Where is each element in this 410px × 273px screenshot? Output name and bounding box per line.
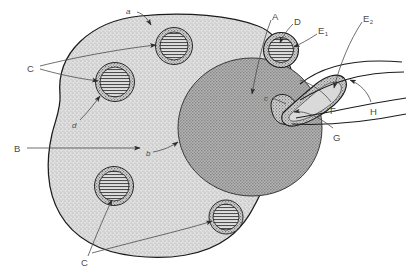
label-a: A [272,12,279,22]
label-e2-sub: 2 [370,19,373,25]
label-c-bottom: C [81,258,88,268]
label-b: B [14,144,21,154]
inclusion-body-lower-left [95,167,134,206]
label-e2: E2 [363,14,373,25]
inclusion-body-bottom [209,200,243,234]
label-d: D [294,17,301,27]
label-e1-base: E [318,25,325,36]
label-c-lowercase: c [264,95,268,103]
nucleus [178,58,322,196]
label-b-lowercase: b [146,150,150,158]
detached-organelle [264,33,299,68]
label-e1: E1 [318,26,328,37]
figure-canvas: A B C C D F G H E1 E2 a b c d [0,0,410,273]
label-d-lowercase: d [72,122,76,130]
inclusion-body-upper-left [96,63,135,102]
inclusion-body-top [156,28,193,65]
label-h: H [370,107,377,117]
label-g: G [333,133,341,143]
label-a-lowercase: a [126,8,130,16]
label-f: F [330,106,336,116]
label-c-upper-left: C [27,64,34,74]
cell-diagram-svg [0,0,410,273]
label-e2-base: E [363,13,370,24]
label-e1-sub: 1 [325,31,328,37]
